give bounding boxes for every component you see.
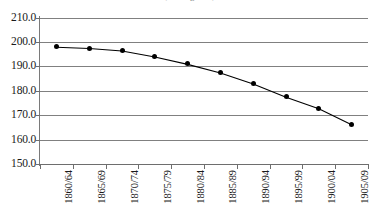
x-axis-tick-mark [106, 164, 107, 169]
data-point-marker [218, 70, 223, 75]
y-axis-tick-label: 150.0 [0, 158, 36, 170]
data-point-marker [349, 122, 354, 127]
x-axis-tick-label: 1905/09 [358, 170, 371, 216]
series-line [40, 18, 368, 165]
y-axis-tick-label: 210.0 [0, 12, 36, 24]
y-axis-tick-label: 160.0 [0, 134, 36, 146]
x-axis-tick-label: 1880/84 [194, 170, 207, 216]
y-axis-tick-label: 200.0 [0, 36, 36, 48]
data-point-marker [251, 81, 256, 86]
data-point-marker [87, 46, 92, 51]
x-axis-tick-label: 1895/99 [292, 170, 305, 216]
plot-area [40, 18, 368, 165]
x-axis-tick-label: 1885/89 [226, 170, 239, 216]
y-axis-tick-label: 180.0 [0, 85, 36, 97]
x-axis-tick-label: 1890/94 [259, 170, 272, 216]
line-chart: (in kilograms) 210.0200.0190.0180.0170.0… [0, 0, 379, 217]
data-point-marker [120, 48, 125, 53]
x-axis-tick-mark [302, 164, 303, 169]
x-axis-tick-mark [237, 164, 238, 169]
chart-title: (in kilograms) [0, 0, 379, 1]
x-axis-tick-labels: 1860/641865/691870/741875/791880/841885/… [40, 170, 368, 217]
x-axis-tick-mark [335, 164, 336, 169]
x-axis-tick-mark [368, 164, 369, 169]
x-axis-tick-mark [73, 164, 74, 169]
x-axis-tick-mark [270, 164, 271, 169]
x-axis-tick-mark [204, 164, 205, 169]
x-axis-tick-mark [40, 164, 41, 169]
data-point-marker [284, 94, 289, 99]
x-axis-tick-mark [138, 164, 139, 169]
y-axis-tick-label: 170.0 [0, 109, 36, 121]
x-axis-tick-mark [171, 164, 172, 169]
x-axis-tick-label: 1860/64 [62, 170, 75, 216]
x-axis-tick-label: 1865/69 [95, 170, 108, 216]
x-axis-tick-label: 1900/04 [325, 170, 338, 216]
x-axis-tick-label: 1875/79 [161, 170, 174, 216]
y-axis-tick-label: 190.0 [0, 60, 36, 72]
x-axis-tick-label: 1870/74 [128, 170, 141, 216]
